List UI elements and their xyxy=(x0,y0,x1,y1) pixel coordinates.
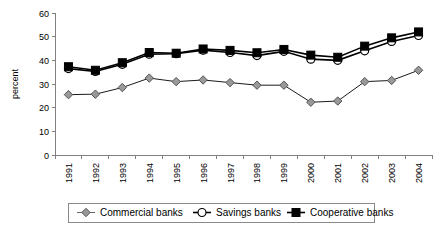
series-diamond-2004-marker-diamond xyxy=(414,66,422,74)
series-savings-banks xyxy=(64,31,422,75)
x-tick-label-1998: 1998 xyxy=(252,163,262,183)
series-square-2003-marker-square xyxy=(388,34,396,42)
series-diamond-1994-marker-diamond xyxy=(145,74,153,82)
x-tick-label-2002: 2002 xyxy=(360,163,370,183)
series-diamond-1995-marker-diamond xyxy=(172,77,180,85)
line-chart: 0102030405060percent19911992199319941995… xyxy=(0,0,442,231)
series-diamond-1991-marker-diamond xyxy=(64,90,72,98)
legend-label-savings-banks: Savings banks xyxy=(216,207,281,218)
series-square-2004-marker-square xyxy=(415,28,423,36)
x-tick-label-2004: 2004 xyxy=(414,163,424,183)
series-square-2000-marker-square xyxy=(307,51,315,59)
y-tick-label-20: 20 xyxy=(39,103,49,113)
series-square-1998-marker-square xyxy=(253,49,261,57)
x-tick-label-2000: 2000 xyxy=(306,163,316,183)
legend-label-cooperative-banks: Cooperative banks xyxy=(310,207,393,218)
y-tick-label-0: 0 xyxy=(44,151,49,161)
y-tick-label-10: 10 xyxy=(39,127,49,137)
series-square-1992-marker-square xyxy=(91,66,99,74)
series-square-2002-marker-square xyxy=(361,42,369,50)
x-tick-label-2003: 2003 xyxy=(387,163,397,183)
series-square-2001-marker-square xyxy=(334,53,342,61)
series-diamond-2002-marker-diamond xyxy=(360,77,368,85)
x-tick-label-1994: 1994 xyxy=(145,163,155,183)
series-square-1996-marker-square xyxy=(199,45,207,53)
series-diamond-1997-marker-diamond xyxy=(226,78,234,86)
series-diamond-1996-marker-diamond xyxy=(199,76,207,84)
y-tick-label-50: 50 xyxy=(39,32,49,42)
series-square-1991-marker-square xyxy=(64,63,72,71)
series-diamond-2000-marker-diamond xyxy=(307,98,315,106)
series-diamond-1992-marker-diamond xyxy=(91,90,99,98)
x-tick-label-1991: 1991 xyxy=(64,163,74,183)
chart-legend: Commercial banksSavings banksCooperative… xyxy=(68,203,393,222)
x-tick-label-1997: 1997 xyxy=(226,163,236,183)
legend-swatch-marker-circle xyxy=(198,209,206,217)
x-tick-label-2001: 2001 xyxy=(333,163,343,183)
x-tick-label-1992: 1992 xyxy=(91,163,101,183)
series-diamond-2003-marker-diamond xyxy=(387,76,395,84)
series-square-1997-marker-square xyxy=(226,46,234,54)
x-tick-label-1999: 1999 xyxy=(279,163,289,183)
x-tick-label-1993: 1993 xyxy=(118,163,128,183)
y-tick-label-60: 60 xyxy=(39,9,49,19)
series-diamond-1998-marker-diamond xyxy=(253,81,261,89)
series-square-1994-marker-square xyxy=(145,49,153,57)
x-tick-label-1995: 1995 xyxy=(172,163,182,183)
series-square-1999-marker-square xyxy=(280,45,288,53)
y-tick-label-40: 40 xyxy=(39,56,49,66)
legend-label-commercial-banks: Commercial banks xyxy=(100,207,183,218)
series-commercial-banks xyxy=(64,66,422,106)
series-diamond-2001-marker-diamond xyxy=(334,97,342,105)
series-diamond-1999-marker-diamond xyxy=(280,81,288,89)
y-tick-label-30: 30 xyxy=(39,80,49,90)
series-square-1995-marker-square xyxy=(172,49,180,57)
legend-swatch-marker-square xyxy=(292,209,300,217)
y-axis-title: percent xyxy=(10,68,20,99)
series-diamond-1993-marker-diamond xyxy=(118,83,126,91)
chart-container: 0102030405060percent19911992199319941995… xyxy=(0,0,442,231)
x-tick-label-1996: 1996 xyxy=(199,163,209,183)
series-square-1993-marker-square xyxy=(118,59,126,67)
